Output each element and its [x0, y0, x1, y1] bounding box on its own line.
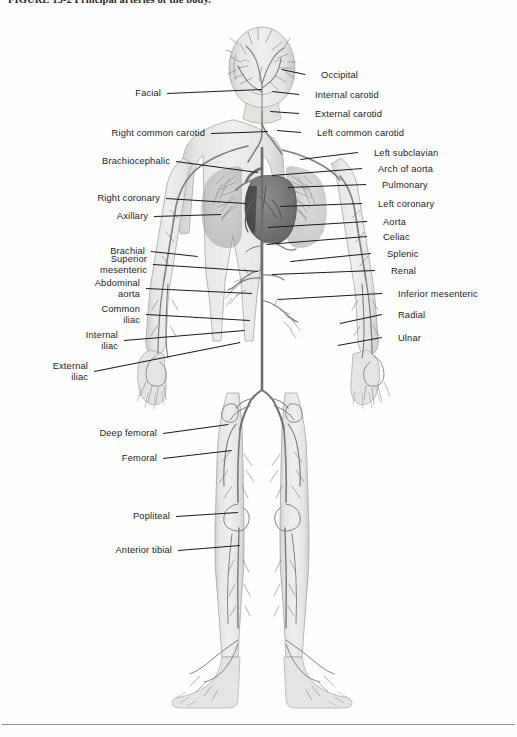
artery-label-anterior-tibial: Anterior tibial: [0, 545, 172, 556]
artery-label-internal-carotid: Internal carotid: [315, 90, 379, 101]
label-line: Abdominal: [0, 278, 140, 289]
label-line: iliac: [0, 315, 140, 326]
artery-label-external-carotid: External carotid: [315, 109, 382, 120]
artery-label-common-iliac: Commoniliac: [0, 304, 140, 325]
label-line: Common: [0, 304, 140, 315]
page-bottom-rule: [2, 724, 515, 725]
label-line: Pulmonary: [382, 180, 428, 191]
artery-label-aorta: Aorta: [383, 217, 406, 228]
label-line: Femoral: [0, 453, 157, 464]
artery-label-left-common-carotid: Left common carotid: [317, 128, 404, 139]
label-line: Anterior tibial: [0, 545, 172, 556]
label-line: mesenteric: [0, 265, 147, 276]
artery-label-arch-of-aorta: Arch of aorta: [378, 164, 433, 175]
artery-label-facial: Facial: [0, 88, 161, 99]
anatomical-figure: OccipitalInternal carotidExternal caroti…: [0, 0, 517, 724]
label-line: Brachiocephalic: [0, 156, 170, 167]
label-line: Popliteal: [0, 511, 170, 522]
label-line: iliac: [0, 372, 88, 383]
label-line: Internal: [0, 330, 118, 341]
label-line: Ulnar: [398, 333, 421, 344]
label-line: Occipital: [321, 70, 358, 81]
artery-label-splenic: Splenic: [387, 249, 419, 260]
label-line: Left coronary: [378, 199, 434, 210]
label-line: External carotid: [315, 109, 382, 120]
artery-label-femoral: Femoral: [0, 453, 157, 464]
artery-label-left-subclavian: Left subclavian: [374, 148, 438, 159]
artery-label-brachiocephalic: Brachiocephalic: [0, 156, 170, 167]
artery-label-deep-femoral: Deep femoral: [0, 428, 157, 439]
artery-label-external-iliac: Externaliliac: [0, 361, 88, 382]
artery-label-radial: Radial: [398, 310, 425, 321]
label-line: Arch of aorta: [378, 164, 433, 175]
artery-label-right-common-carotid: Right common carotid: [0, 128, 205, 139]
label-line: Left common carotid: [317, 128, 404, 139]
artery-label-axillary: Axillary: [0, 211, 148, 222]
label-line: Deep femoral: [0, 428, 157, 439]
label-line: Facial: [0, 88, 161, 99]
label-line: Renal: [391, 266, 416, 277]
artery-label-internal-iliac: Internaliliac: [0, 330, 118, 351]
label-line: Axillary: [0, 211, 148, 222]
artery-label-superior-mesenteric: Superiormesenteric: [0, 254, 147, 275]
label-line: Left subclavian: [374, 148, 438, 159]
label-line: Internal carotid: [315, 90, 379, 101]
artery-label-ulnar: Ulnar: [398, 333, 421, 344]
artery-label-abdominal-aorta: Abdominalaorta: [0, 278, 140, 299]
artery-label-right-coronary: Right coronary: [0, 193, 160, 204]
artery-label-left-coronary: Left coronary: [378, 199, 434, 210]
artery-label-occipital: Occipital: [321, 70, 358, 81]
artery-label-pulmonary: Pulmonary: [382, 180, 428, 191]
label-line: Splenic: [387, 249, 419, 260]
label-line: Right common carotid: [0, 128, 205, 139]
label-line: Superior: [0, 254, 147, 265]
label-line: External: [0, 361, 88, 372]
label-line: aorta: [0, 289, 140, 300]
label-line: Celiac: [383, 232, 410, 243]
label-line: iliac: [0, 341, 118, 352]
artery-label-inferior-mesenteric: Inferior mesenteric: [398, 289, 478, 300]
artery-label-celiac: Celiac: [383, 232, 410, 243]
label-line: Radial: [398, 310, 425, 321]
heart: [245, 176, 297, 244]
label-line: Inferior mesenteric: [398, 289, 478, 300]
label-line: Right coronary: [0, 193, 160, 204]
artery-label-renal: Renal: [391, 266, 416, 277]
label-line: Aorta: [383, 217, 406, 228]
artery-label-popliteal: Popliteal: [0, 511, 170, 522]
figure-page: FIGURE 15-2 Principal arteries of the bo…: [0, 0, 517, 737]
